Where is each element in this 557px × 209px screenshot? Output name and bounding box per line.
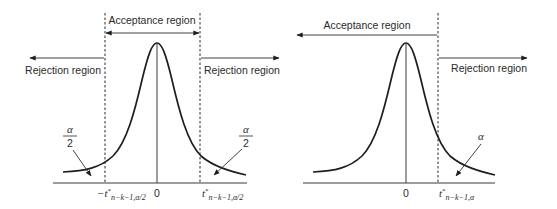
svg-text:2: 2 xyxy=(243,137,249,149)
left-critical-value-label: −t*n−k−1,α/2 xyxy=(97,187,146,202)
left-tail-pointer-arrow xyxy=(73,150,91,176)
t-distribution-curve xyxy=(63,43,246,175)
svg-text:α: α xyxy=(67,123,73,135)
hypothesis-test-regions-figure: Acceptance region Rejection region Rejec… xyxy=(0,0,557,209)
center-zero-label: 0 xyxy=(403,187,409,199)
left-tail-alpha-half-label: α 2 xyxy=(63,123,77,149)
center-zero-label: 0 xyxy=(154,187,160,199)
right-tail-pointer-arrow xyxy=(214,149,242,175)
critical-value-label: t*n−k−1,α xyxy=(439,187,475,202)
left-rejection-region-label: Rejection region xyxy=(25,64,101,76)
right-rejection-region-label: Rejection region xyxy=(204,64,280,76)
tail-pointer-arrow xyxy=(456,144,481,176)
tail-alpha-label: α xyxy=(478,130,484,142)
right-tail-alpha-half-label: α 2 xyxy=(239,123,253,149)
acceptance-region-label: Acceptance region xyxy=(109,14,196,26)
right-critical-value-label: t*n−k−1,α/2 xyxy=(202,187,243,202)
two-tailed-panel: Acceptance region Rejection region Rejec… xyxy=(25,13,280,202)
one-tailed-panel: Acceptance region Rejection region α 0 t… xyxy=(297,13,527,202)
rejection-region-label: Rejection region xyxy=(451,62,527,74)
svg-text:2: 2 xyxy=(67,137,73,149)
acceptance-region-label: Acceptance region xyxy=(324,19,411,31)
svg-text:α: α xyxy=(243,123,249,135)
